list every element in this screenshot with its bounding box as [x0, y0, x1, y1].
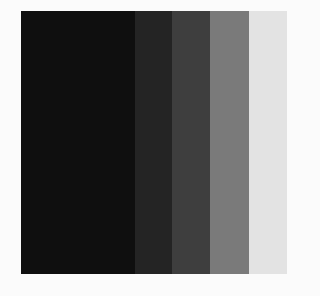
grayscale-swatch-strip [21, 11, 287, 274]
swatch-very-dark-gray [135, 11, 172, 274]
swatch-black [21, 11, 135, 274]
swatch-light-gray [249, 11, 287, 274]
swatch-dark-gray [172, 11, 210, 274]
swatch-mid-gray [210, 11, 249, 274]
